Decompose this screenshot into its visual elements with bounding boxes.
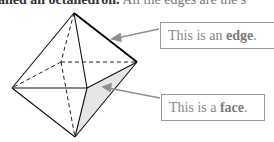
edge-callout-term: edge — [226, 28, 253, 43]
face-callout-suffix: . — [244, 100, 248, 115]
face-callout-prefix: This is a — [169, 100, 220, 115]
edge-callout-suffix: . — [253, 28, 257, 43]
edge-callout: This is an edge. — [160, 22, 274, 49]
edge-arrow-head — [112, 34, 121, 41]
face-callout-term: face — [220, 100, 244, 115]
edge-arrow-line — [117, 29, 159, 38]
edge-callout-prefix: This is an — [168, 28, 226, 43]
face-callout: This is a face. — [161, 94, 265, 121]
face-arrow-line — [108, 88, 160, 98]
highlighted-edge — [74, 13, 137, 62]
